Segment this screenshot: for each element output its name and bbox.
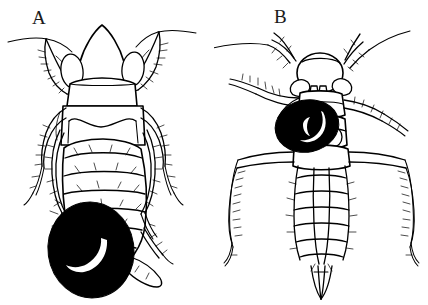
panel-a-illustration <box>0 0 214 305</box>
cerci-b <box>311 266 332 299</box>
antenna-left-a <box>8 38 72 52</box>
foreleg-right-b <box>344 97 408 136</box>
pronotum-a <box>67 78 137 106</box>
antenna-left-b <box>214 33 296 68</box>
antenna-right-b <box>344 31 410 71</box>
hindleg-left-b <box>224 152 294 266</box>
antenna-right-a <box>136 31 196 47</box>
panel-b-illustration <box>214 0 428 305</box>
figure-panel-a: A <box>0 0 214 305</box>
hindleg-right-b <box>349 152 419 266</box>
figure-root: A <box>0 0 428 305</box>
abdomen-b <box>286 166 357 271</box>
foreleg-left-b <box>229 74 299 106</box>
figure-panel-b: B <box>214 0 428 305</box>
